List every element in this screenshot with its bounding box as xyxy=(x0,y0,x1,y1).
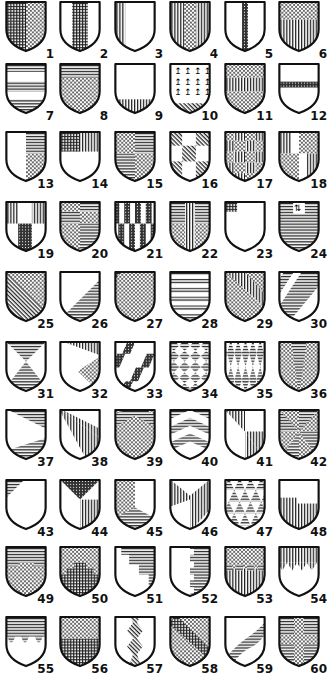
shield-50: 50 xyxy=(58,545,108,605)
shield-number: 14 xyxy=(91,178,108,190)
shield-51-icon xyxy=(113,545,157,599)
shield-26: 26 xyxy=(58,270,108,330)
shield-34: 34 xyxy=(168,340,218,400)
shield-32-icon xyxy=(58,340,102,394)
shield-2-icon xyxy=(58,0,102,54)
shield-50-icon xyxy=(58,545,102,599)
shield-12-icon xyxy=(277,62,321,116)
shield-number: 60 xyxy=(310,663,327,675)
shield-60-icon xyxy=(277,615,321,669)
shield-number: 42 xyxy=(310,456,327,468)
shield-28-icon xyxy=(168,270,212,324)
shield-number: 31 xyxy=(37,388,54,400)
shield-number: 58 xyxy=(201,663,218,675)
shield-38-icon xyxy=(58,408,102,462)
shield-number: 35 xyxy=(256,388,273,400)
svg-text:↥: ↥ xyxy=(184,77,191,87)
shield-56-icon xyxy=(58,615,102,669)
shield-58: 58 xyxy=(168,615,218,675)
shield-number: 10 xyxy=(201,110,218,122)
shield-60: 60 xyxy=(277,615,327,675)
shield-31: 31 xyxy=(4,340,54,400)
shield-19-icon xyxy=(4,200,48,254)
shield-27-icon xyxy=(113,270,157,324)
shield-number: 13 xyxy=(37,178,54,190)
shield-57: 57 xyxy=(113,615,163,675)
shield-25: 25 xyxy=(4,270,54,330)
shield-8-icon xyxy=(58,62,102,116)
shield-24: ⇅ 24 xyxy=(277,200,327,260)
shield-number: 7 xyxy=(46,110,54,122)
shield-27: 27 xyxy=(113,270,163,330)
shield-48: 48 xyxy=(277,478,327,538)
shield-49-icon xyxy=(4,545,48,599)
shield-13-icon xyxy=(4,130,48,184)
shield-number: 41 xyxy=(256,456,273,468)
shield-number: 12 xyxy=(310,110,327,122)
shield-56: 56 xyxy=(58,615,108,675)
shield-number: 8 xyxy=(100,110,108,122)
shield-26-icon xyxy=(58,270,102,324)
shield-number: 5 xyxy=(265,48,273,60)
svg-text:↥: ↥ xyxy=(184,66,191,76)
shield-20-icon xyxy=(58,200,102,254)
shield-number: 25 xyxy=(37,318,54,330)
shield-44-icon xyxy=(58,478,102,532)
shield-54: 54 xyxy=(277,545,327,605)
shield-38: 38 xyxy=(58,408,108,468)
shield-49: 49 xyxy=(4,545,54,605)
shield-3: 3 xyxy=(113,0,163,60)
shield-37: 37 xyxy=(4,408,54,468)
shield-39-icon xyxy=(113,408,157,462)
shield-6: 6 xyxy=(277,0,327,60)
shield-15-icon xyxy=(113,130,157,184)
shield-number: 50 xyxy=(91,593,108,605)
shield-30: 30 xyxy=(277,270,327,330)
shield-34-icon xyxy=(168,340,212,394)
shield-number: 36 xyxy=(310,388,327,400)
shield-number: 59 xyxy=(256,663,273,675)
shield-number: 3 xyxy=(155,48,163,60)
shield-51: 51 xyxy=(113,545,163,605)
shield-number: 4 xyxy=(210,48,218,60)
shield-46-icon xyxy=(168,478,212,532)
shield-number: 39 xyxy=(146,456,163,468)
shield-15: 15 xyxy=(113,130,163,190)
shield-number: 29 xyxy=(256,318,273,330)
shield-number: 17 xyxy=(256,178,273,190)
shield-18: 18 xyxy=(277,130,327,190)
shield-36: 36 xyxy=(277,340,327,400)
svg-text:↥: ↥ xyxy=(194,77,201,87)
shield-number: 1 xyxy=(46,48,54,60)
shield-20: 20 xyxy=(58,200,108,260)
shield-19: 19 xyxy=(4,200,54,260)
shield-number: 30 xyxy=(310,318,327,330)
shield-45: 45 xyxy=(113,478,163,538)
shield-42-icon xyxy=(277,408,321,462)
shield-10: ↥↥↥↥↥↥↥↥↥↥↥↥ 10 xyxy=(168,62,218,122)
shield-11-icon xyxy=(223,62,267,116)
shield-9-icon xyxy=(113,62,157,116)
shield-52: 52 xyxy=(168,545,218,605)
shield-31-icon xyxy=(4,340,48,394)
shield-18-icon xyxy=(277,130,321,184)
shield-55-icon xyxy=(4,615,48,669)
shield-16-icon xyxy=(168,130,212,184)
shield-36-icon xyxy=(277,340,321,394)
shield-number: 18 xyxy=(310,178,327,190)
shield-53: 53 xyxy=(223,545,273,605)
shield-number: 33 xyxy=(146,388,163,400)
shield-43-icon xyxy=(4,478,48,532)
shield-22: 22 xyxy=(168,200,218,260)
shield-1-icon xyxy=(4,0,48,54)
shield-number: 21 xyxy=(146,248,163,260)
shield-23: 23 xyxy=(223,200,273,260)
shield-number: 15 xyxy=(146,178,163,190)
shield-40-icon xyxy=(168,408,212,462)
shield-30-icon xyxy=(277,270,321,324)
shield-number: 9 xyxy=(155,110,163,122)
shield-number: 23 xyxy=(256,248,273,260)
shield-48-icon xyxy=(277,478,321,532)
shield-59-icon xyxy=(223,615,267,669)
shield-40: 40 xyxy=(168,408,218,468)
